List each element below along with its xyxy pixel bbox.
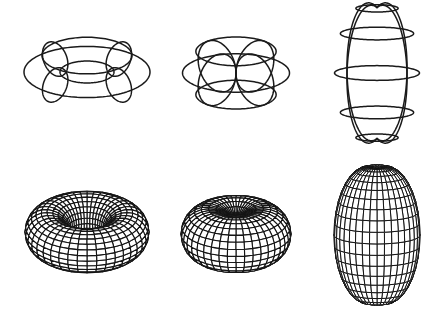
mesh-cell — [356, 231, 363, 243]
parallel-circle — [356, 5, 398, 12]
mesh-cell — [377, 285, 383, 293]
mesh-cell — [384, 220, 391, 232]
mesh-cell — [362, 255, 369, 266]
mesh-cell — [363, 209, 370, 220]
parallel-circle — [196, 37, 276, 66]
mesh-cell — [236, 256, 245, 262]
mesh-cell — [391, 254, 398, 266]
mesh-cell — [370, 221, 377, 233]
mesh-cell — [227, 256, 236, 262]
parallel-circle — [340, 27, 413, 40]
parallel-circle — [42, 37, 132, 74]
mesh-cell — [372, 293, 378, 299]
parallel-circle — [196, 80, 276, 109]
mesh-cell — [384, 243, 391, 255]
figure-canvas: Ring torus (wireframe) Horn torus (wiref… — [0, 0, 439, 316]
horn-torus-wireframe-diagram: Horn torus (wireframe) — [183, 37, 290, 109]
mesh-cell — [377, 210, 384, 221]
mesh-cell — [372, 183, 378, 191]
mesh-cell — [252, 240, 261, 248]
mesh-cell — [78, 239, 87, 245]
mesh-cell — [377, 221, 384, 233]
mesh-cell — [236, 229, 243, 236]
mesh-cell — [371, 285, 377, 293]
spindle-torus-wireframe-diagram: Spindle torus (wireframe) — [335, 3, 420, 143]
mesh-cell — [404, 229, 410, 242]
mesh-cell — [377, 266, 384, 276]
meridian-circle — [106, 68, 131, 102]
mesh-cell — [377, 276, 384, 285]
mesh-cell — [370, 232, 377, 244]
mesh-cell — [244, 241, 253, 249]
mesh-cell — [370, 244, 377, 256]
mesh-cell — [362, 220, 369, 232]
mesh-cell — [383, 199, 390, 210]
mesh-cell — [377, 172, 381, 176]
mesh-cell — [78, 244, 87, 250]
mesh-cell — [219, 241, 228, 249]
mesh-cell — [228, 235, 236, 242]
mesh-cell — [384, 232, 391, 244]
mesh-cell — [87, 244, 96, 250]
mesh-cell — [211, 240, 220, 248]
mesh-cell — [370, 255, 377, 266]
mesh-cell — [229, 229, 236, 236]
mesh-cell — [77, 255, 87, 261]
mesh-cell — [377, 244, 384, 256]
mesh-cell — [404, 241, 410, 254]
mesh-cell — [236, 224, 242, 229]
mesh-cell — [364, 199, 371, 210]
mesh-cell — [377, 232, 384, 244]
meridian-circle — [42, 68, 67, 102]
mesh-cell — [384, 209, 391, 220]
mesh-cell — [228, 242, 236, 249]
mesh-cell — [356, 220, 363, 232]
parallel-circle — [356, 134, 398, 141]
mesh-cell — [371, 190, 377, 199]
mesh-cell — [228, 262, 236, 267]
horn-torus-mesh-diagram: Horn torus (mesh) — [181, 195, 291, 272]
mesh-cell — [364, 276, 371, 285]
ring-torus-wireframe-diagram: Ring torus (wireframe) — [24, 37, 150, 102]
mesh-cell — [398, 242, 404, 254]
mesh-cell — [370, 210, 377, 221]
mesh-cell — [59, 247, 69, 254]
mesh-cell — [349, 242, 355, 254]
mesh-cell — [370, 266, 377, 276]
mesh-cell — [236, 235, 244, 242]
mesh-cell — [230, 224, 236, 229]
mesh-cell — [344, 241, 350, 254]
mesh-cell — [384, 255, 391, 266]
mesh-cell — [362, 243, 369, 255]
mesh-cell — [384, 266, 391, 276]
parallel-circle — [340, 106, 413, 119]
mesh-cell — [372, 298, 377, 302]
mesh-cell — [377, 293, 383, 299]
mesh-cell — [363, 266, 370, 276]
mesh-cell — [370, 200, 377, 210]
mesh-cell — [105, 247, 115, 254]
mesh-cell — [391, 220, 398, 232]
mesh-cell — [392, 231, 399, 243]
mesh-cell — [227, 249, 236, 256]
mesh-cell — [344, 229, 350, 242]
mesh-cell — [362, 232, 369, 244]
torus-figure: Ring, horn and spindle tori: wireframe a… — [0, 0, 439, 316]
mesh-cell — [398, 230, 404, 242]
mesh-cell — [236, 242, 244, 249]
mesh-cell — [372, 176, 377, 182]
mesh-cell — [377, 298, 382, 302]
mesh-cell — [236, 249, 245, 256]
mesh-cell — [236, 262, 244, 267]
mesh-cell — [87, 250, 97, 256]
mesh-cell — [356, 254, 363, 266]
mesh-cell — [349, 230, 355, 242]
ring-torus-mesh-diagram: Ring torus (mesh) — [25, 191, 149, 273]
mesh-cell — [87, 239, 96, 245]
mesh-cell — [392, 243, 399, 255]
mesh-cell — [373, 172, 377, 176]
mesh-cell — [377, 200, 384, 210]
mesh-cell — [377, 255, 384, 266]
spindle-torus-mesh-diagram: Spindle torus (mesh) — [334, 165, 420, 305]
mesh-cell — [68, 249, 78, 256]
